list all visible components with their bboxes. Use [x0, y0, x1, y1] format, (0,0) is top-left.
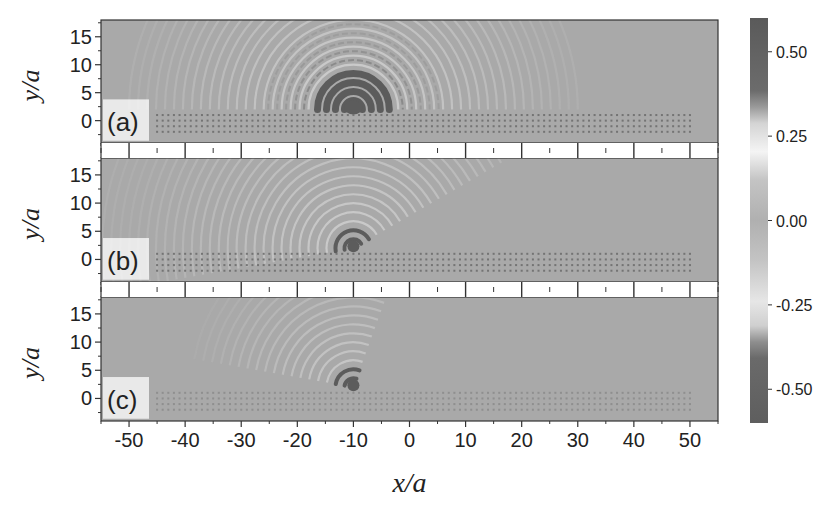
y-tick-label: 5: [81, 359, 92, 381]
x-tick-label: 10: [454, 429, 476, 451]
x-axis-label: x/a: [391, 467, 426, 498]
y-tick-label: 0: [81, 248, 92, 270]
y-tick-label: 10: [70, 192, 92, 214]
y-tick-label: 15: [70, 26, 92, 48]
y-axis-label: y/a: [16, 208, 45, 243]
x-tick-label: 0: [404, 429, 415, 451]
panels-group: [101, 0, 718, 421]
y-tick-label: 15: [70, 303, 92, 325]
y-axis-label: y/a: [16, 347, 45, 382]
y-tick-label: 5: [81, 220, 92, 242]
y-tick-label: 10: [70, 331, 92, 353]
chart-svg: (a)051015y/a(b)051015y/a(c)051015y/a-50-…: [0, 0, 818, 512]
y-tick-label: 15: [70, 164, 92, 186]
panel-label: (a): [107, 107, 139, 137]
x-tick-label: -30: [227, 429, 256, 451]
x-tick-label: -40: [171, 429, 200, 451]
y-tick-label: 10: [70, 54, 92, 76]
y-axis-label: y/a: [16, 70, 45, 105]
x-tick-label: -20: [283, 429, 312, 451]
colorbar-tick-label: 0.50: [776, 44, 807, 61]
colorbar-gradient: [750, 18, 768, 423]
panel-label: (c): [107, 385, 137, 415]
x-tick-label: 20: [511, 429, 533, 451]
x-tick-label: 50: [679, 429, 701, 451]
x-tick-label: -50: [115, 429, 144, 451]
colorbar-tick-label: -0.50: [776, 381, 813, 398]
heatmap-panel-a: [101, 0, 718, 143]
x-tick-label: 30: [567, 429, 589, 451]
y-tick-label: 5: [81, 82, 92, 104]
colorbar: 0.500.250.00-0.25-0.50: [750, 18, 813, 423]
figure: (a)051015y/a(b)051015y/a(c)051015y/a-50-…: [0, 0, 818, 512]
y-tick-label: 0: [81, 110, 92, 132]
panel-label: (b): [107, 246, 139, 276]
colorbar-tick-label: -0.25: [776, 297, 813, 314]
y-tick-label: 0: [81, 387, 92, 409]
colorbar-tick-label: 0.25: [776, 128, 807, 145]
colorbar-tick-label: 0.00: [776, 213, 807, 230]
x-tick-label: 40: [623, 429, 645, 451]
x-tick-label: -10: [339, 429, 368, 451]
